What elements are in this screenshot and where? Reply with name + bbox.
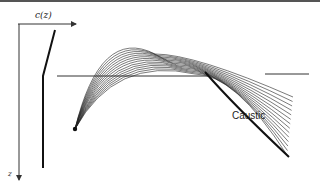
source-point bbox=[73, 127, 77, 131]
caustic-label: Caustic bbox=[232, 110, 265, 121]
ray-diagram bbox=[0, 0, 320, 186]
sound-speed-profile bbox=[43, 30, 55, 168]
ray-fan bbox=[75, 48, 293, 155]
depth-axis-label: z bbox=[8, 170, 12, 178]
speed-axis-label: c(z) bbox=[35, 10, 52, 20]
axes bbox=[18, 24, 76, 180]
